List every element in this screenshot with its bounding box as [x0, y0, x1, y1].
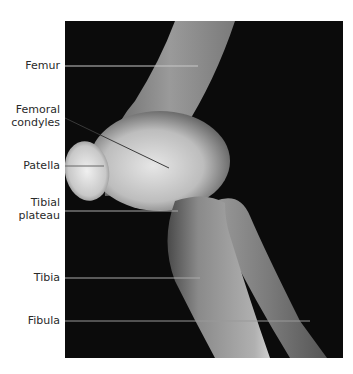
label-femoral-condyles-line1: Femoral — [11, 103, 60, 116]
label-tibia-text: Tibia — [34, 271, 60, 284]
label-fibula-text: Fibula — [28, 314, 60, 327]
label-patella: Patella — [23, 159, 60, 172]
knee-xray-image — [65, 21, 343, 358]
label-femur: Femur — [25, 59, 60, 72]
label-femoral-condyles-line2: condyles — [11, 116, 60, 129]
label-fibula: Fibula — [28, 314, 60, 327]
label-tibia: Tibia — [34, 271, 60, 284]
label-femoral-condyles: Femoral condyles — [11, 103, 60, 129]
label-tibial-plateau: Tibial plateau — [18, 196, 60, 222]
leader-lines — [65, 21, 343, 358]
label-femur-text: Femur — [25, 59, 60, 72]
label-tibial-plateau-line2: plateau — [18, 209, 60, 222]
leader-femoral-condyles — [65, 118, 169, 168]
label-tibial-plateau-line1: Tibial — [18, 196, 60, 209]
label-patella-text: Patella — [23, 159, 60, 172]
